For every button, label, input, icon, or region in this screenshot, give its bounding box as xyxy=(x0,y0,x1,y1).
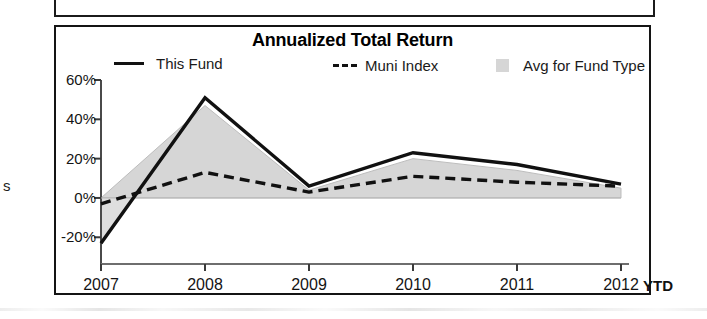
x-tick-2011: 2011 xyxy=(482,277,552,293)
plot-area xyxy=(56,27,653,297)
y-tick-0: 0% xyxy=(38,190,96,205)
y-tick-20: 20% xyxy=(38,151,96,166)
adjacent-panel-edge xyxy=(54,0,655,17)
y-tick-neg20: -20% xyxy=(38,229,96,244)
y-tick-60: 60% xyxy=(38,72,96,87)
y-tick-40: 40% xyxy=(38,111,96,126)
chart-canvas xyxy=(56,27,653,297)
scan-artifact xyxy=(0,308,707,311)
x-tick-2007: 2007 xyxy=(66,277,136,293)
x-tick-2008: 2008 xyxy=(170,277,240,293)
screenshot-root: s Annualized Total Return This Fund Muni… xyxy=(0,0,707,319)
ytd-annotation: YTD xyxy=(643,278,673,293)
clipped-margin-text: s xyxy=(3,178,11,193)
x-tick-2010: 2010 xyxy=(378,277,448,293)
x-tick-2009: 2009 xyxy=(274,277,344,293)
annualized-total-return-chart: Annualized Total Return This Fund Muni I… xyxy=(54,25,651,295)
